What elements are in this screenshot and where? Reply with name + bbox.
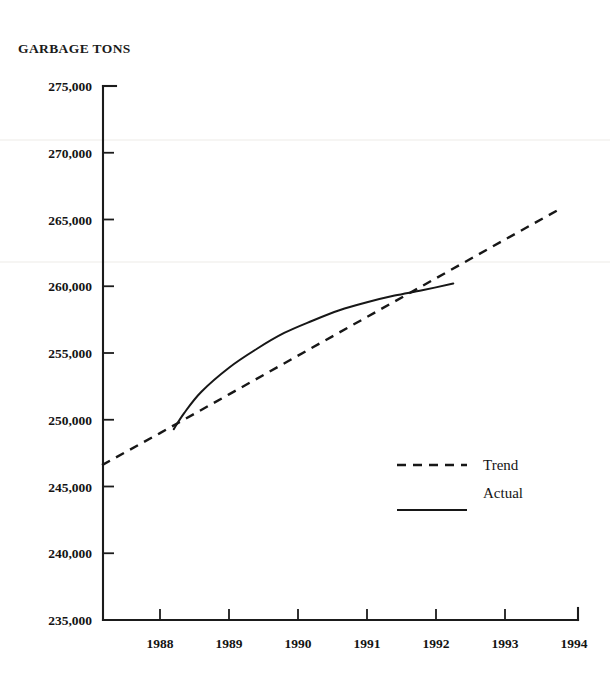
y-axis: 275,000270,000265,000260,000255,000250,0… xyxy=(48,79,116,628)
y-axis-tick-label: 250,000 xyxy=(48,413,92,428)
x-axis-tick-label: 1994 xyxy=(561,636,588,651)
y-axis-ticks xyxy=(103,153,114,554)
series-line-trend xyxy=(102,209,560,465)
y-axis-tick-label: 275,000 xyxy=(48,79,92,94)
line-chart-plot: 275,000270,000265,000260,000255,000250,0… xyxy=(0,0,610,680)
y-axis-tick-label: 240,000 xyxy=(48,546,92,561)
y-axis-tick-label: 265,000 xyxy=(48,213,92,228)
data-series-group xyxy=(102,209,560,465)
y-axis-tick-label: 235,000 xyxy=(48,613,92,628)
x-axis: 1988198919901991199219931994 xyxy=(103,608,588,651)
x-axis-tick-label: 1992 xyxy=(423,636,450,651)
legend-label-actual: Actual xyxy=(483,485,523,501)
chart-legend: TrendActual xyxy=(397,457,523,510)
y-axis-tick-label: 245,000 xyxy=(48,480,92,495)
x-axis-tick-label: 1991 xyxy=(354,636,381,651)
y-axis-tick-label: 270,000 xyxy=(48,146,92,161)
series-line-actual xyxy=(174,284,453,430)
legend-label-trend: Trend xyxy=(483,457,519,473)
x-axis-ticks xyxy=(160,609,505,620)
x-axis-tick-labels: 1988198919901991199219931994 xyxy=(147,636,588,651)
x-axis-tick-label: 1988 xyxy=(147,636,174,651)
y-axis-tick-label: 260,000 xyxy=(48,279,92,294)
x-axis-tick-label: 1990 xyxy=(285,636,312,651)
y-axis-tick-label: 255,000 xyxy=(48,346,92,361)
chart-container: GARBAGE TONS 275,000270,000265,000260,00… xyxy=(0,0,610,680)
y-axis-tick-labels: 275,000270,000265,000260,000255,000250,0… xyxy=(48,79,92,628)
x-axis-tick-label: 1993 xyxy=(492,636,519,651)
x-axis-tick-label: 1989 xyxy=(216,636,243,651)
